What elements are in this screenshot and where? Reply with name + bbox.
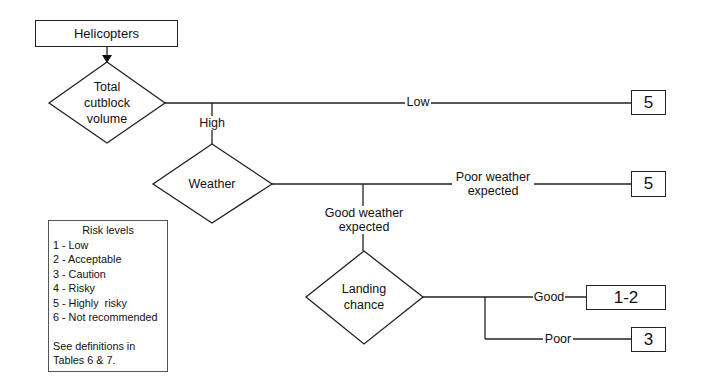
start-node: Helicopters [35,20,178,47]
legend-item: 4 - Risky [53,281,163,296]
edge-label-poor: Poor [543,332,573,346]
edge-label-poor-weather: Poor weather expected [452,170,534,198]
outcome-poor-landing: 3 [631,327,666,352]
legend-item: 3 - Caution [53,267,163,282]
legend-title: Risk levels [53,223,163,238]
risk-legend: Risk levels 1 - Low 2 - Acceptable 3 - C… [48,220,168,372]
legend-note: See definitions in [53,339,163,354]
arrow-down-icon [102,55,112,63]
decision-weather: Weather [167,176,257,192]
legend-item: 1 - Low [53,238,163,253]
legend-note: Tables 6 & 7. [53,353,163,368]
decision-volume: Total cutblock volume [62,79,152,127]
outcome-good-landing: 1-2 [586,285,666,310]
edge-label-low: Low [405,95,431,109]
start-label: Helicopters [74,26,139,41]
edge-label-good: Good [533,290,565,304]
outcome-poor-weather: 5 [631,171,666,197]
outcome-low-volume: 5 [631,90,666,115]
decision-landing: Landing chance [319,281,409,313]
legend-item: 2 - Acceptable [53,252,163,267]
legend-item: 6 - Not recommended [53,310,163,325]
legend-item: 5 - Highly risky [53,296,163,311]
edge-label-high: High [198,116,226,130]
edge-label-good-weather: Good weather expected [322,206,406,234]
